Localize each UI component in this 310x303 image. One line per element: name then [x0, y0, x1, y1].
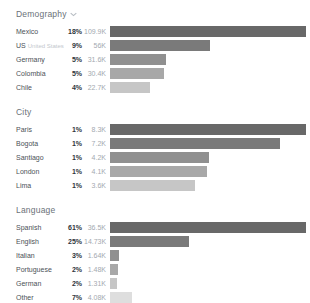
audience-demographics-panel: Demography Mexico 18% 109.9K USUnited St… [0, 0, 310, 303]
row-percent: 5% [58, 68, 82, 79]
row-label-text: English [16, 238, 39, 245]
row-percent: 2% [58, 278, 82, 289]
bar [110, 68, 164, 79]
bar [110, 180, 195, 191]
row-label: London [16, 166, 58, 178]
bar-track [110, 152, 306, 163]
stat-row-chile: Chile 4% 22.7K [16, 82, 306, 93]
row-percent: 4% [58, 82, 82, 93]
row-label: Chile [16, 82, 58, 94]
chevron-down-icon[interactable] [70, 12, 77, 17]
row-label: Other [16, 292, 58, 303]
bar [110, 40, 210, 51]
row-label-text: Spanish [16, 224, 41, 231]
bar-track [110, 264, 306, 275]
section-title-text: Demography [16, 9, 67, 19]
stat-row-mexico: Mexico 18% 109.9K [16, 26, 306, 37]
stat-section-city: City Paris 1% 8.3K Bogota 1% 7.2K Santia… [16, 107, 306, 191]
row-label-text: Colombia [16, 70, 46, 77]
bar [110, 222, 306, 233]
row-percent: 7% [58, 292, 82, 303]
row-percent: 1% [58, 180, 82, 191]
stat-row-us: USUnited States 9% 56K [16, 40, 306, 51]
section-rows: Paris 1% 8.3K Bogota 1% 7.2K Santiago 1%… [16, 124, 306, 191]
row-value: 1.48K [84, 264, 106, 275]
stat-row-german: German 2% 1.31K [16, 278, 306, 289]
bar [110, 152, 209, 163]
row-label-text: US [16, 42, 26, 49]
section-rows: Mexico 18% 109.9K USUnited States 9% 56K… [16, 26, 306, 93]
row-label: Mexico [16, 26, 58, 38]
row-label-text: Germany [16, 56, 45, 63]
row-label-text: Italian [16, 252, 35, 259]
bar-track [110, 54, 306, 65]
row-label: Bogota [16, 138, 58, 150]
row-label-text: London [16, 168, 39, 175]
row-label: Colombia [16, 68, 58, 80]
row-label-text: Other [16, 294, 34, 301]
row-value: 36.5K [84, 222, 106, 233]
bar [110, 124, 306, 135]
stat-row-santiago: Santiago 1% 4.2K [16, 152, 306, 163]
row-value: 4.1K [84, 166, 106, 177]
row-label-text: German [16, 280, 41, 287]
row-label: Italian [16, 250, 58, 262]
row-value: 4.08K [84, 292, 106, 303]
bar [110, 292, 132, 303]
bar [110, 166, 207, 177]
stat-row-portuguese: Portuguese 2% 1.48K [16, 264, 306, 275]
row-percent: 61% [58, 222, 82, 233]
stat-section-demography: Demography Mexico 18% 109.9K USUnited St… [16, 9, 306, 93]
row-value: 1.31K [84, 278, 106, 289]
bar-track [110, 138, 306, 149]
bar [110, 278, 117, 289]
row-label-text: Bogota [16, 140, 38, 147]
stat-row-english: English 25% 14.73K [16, 236, 306, 247]
bar-track [110, 124, 306, 135]
row-value: 14.73K [84, 236, 106, 247]
row-value: 56K [84, 40, 106, 51]
row-percent: 1% [58, 152, 82, 163]
bar [110, 236, 189, 247]
row-value: 7.2K [84, 138, 106, 149]
bar [110, 54, 166, 65]
bar [110, 264, 118, 275]
row-percent: 3% [58, 250, 82, 261]
stat-row-london: London 1% 4.1K [16, 166, 306, 177]
section-title-text: City [16, 107, 31, 117]
section-title: Demography [16, 9, 306, 19]
row-label: USUnited States [16, 40, 58, 52]
row-value: 109.9K [84, 26, 106, 37]
row-value: 3.6K [84, 180, 106, 191]
row-percent: 1% [58, 124, 82, 135]
bar [110, 250, 119, 261]
bar-track [110, 222, 306, 233]
row-label-text: Paris [16, 126, 32, 133]
row-label: Lima [16, 180, 58, 192]
row-label-text: Portuguese [16, 266, 52, 273]
bar-track [110, 82, 306, 93]
row-label-text: Mexico [16, 28, 38, 35]
bar-track [110, 292, 306, 303]
stat-row-germany: Germany 5% 31.6K [16, 54, 306, 65]
row-value: 30.4K [84, 68, 106, 79]
stat-row-other: Other 7% 4.08K [16, 292, 306, 303]
stat-row-spanish: Spanish 61% 36.5K [16, 222, 306, 233]
row-label-text: Santiago [16, 154, 44, 161]
row-label: English [16, 236, 58, 248]
row-percent: 5% [58, 54, 82, 65]
bar-track [110, 40, 306, 51]
row-label: Paris [16, 124, 58, 136]
stat-section-language: Language Spanish 61% 36.5K English 25% 1… [16, 205, 306, 303]
row-label: Portuguese [16, 264, 58, 276]
row-label: German [16, 278, 58, 290]
bar [110, 82, 150, 93]
row-percent: 1% [58, 166, 82, 177]
section-title: Language [16, 205, 306, 215]
row-label: Germany [16, 54, 58, 66]
row-value: 1.64K [84, 250, 106, 261]
row-percent: 9% [58, 40, 82, 51]
row-value: 4.2K [84, 152, 106, 163]
row-percent: 18% [58, 26, 82, 37]
stat-row-paris: Paris 1% 8.3K [16, 124, 306, 135]
